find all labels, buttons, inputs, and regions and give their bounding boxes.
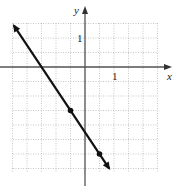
data-point: [68, 108, 74, 114]
y-axis: y 1: [73, 4, 88, 186]
x-axis-label: x: [166, 70, 172, 82]
y-axis-arrow-icon: [82, 6, 88, 14]
x-tick-label: 1: [112, 70, 118, 82]
y-axis-label: y: [73, 4, 79, 16]
line-graph: x 1 y 1: [0, 0, 176, 186]
plotted-line: [13, 24, 110, 170]
y-tick-label: 1: [77, 32, 83, 44]
data-point: [97, 151, 103, 157]
x-axis: x 1: [0, 64, 172, 82]
